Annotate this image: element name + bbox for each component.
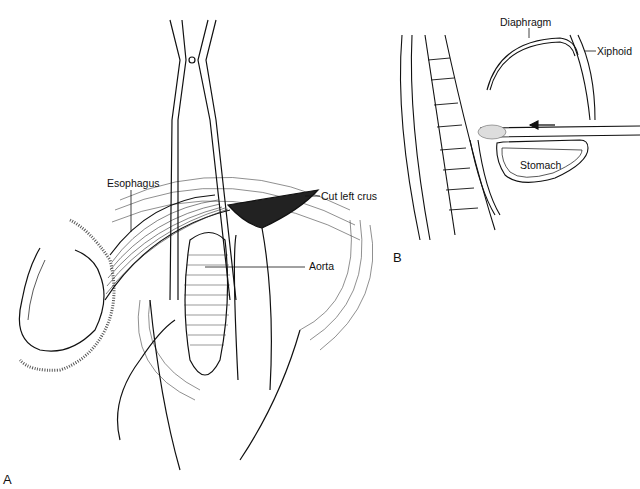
label-cut-left-crus: Cut left crus bbox=[321, 191, 377, 202]
label-stomach: Stomach bbox=[520, 160, 561, 171]
panel-b-drawing bbox=[400, 28, 640, 240]
illustration-canvas bbox=[0, 0, 640, 489]
label-diaphragm: Diaphragm bbox=[500, 17, 551, 28]
panel-b-letter: B bbox=[393, 250, 402, 265]
panel-a-drawing bbox=[19, 20, 372, 470]
label-aorta: Aorta bbox=[309, 261, 334, 272]
label-xiphoid: Xiphoid bbox=[597, 46, 632, 57]
label-esophagus: Esophagus bbox=[107, 178, 160, 189]
panel-a-letter: A bbox=[3, 472, 12, 487]
